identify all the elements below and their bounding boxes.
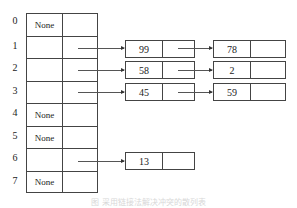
bucket-value-2	[27, 59, 63, 81]
bucket-row-4: None	[27, 104, 97, 127]
node-value: 13	[126, 153, 163, 169]
bucket-index-0: 0	[10, 15, 20, 27]
bucket-row-5: None	[27, 127, 97, 149]
bucket-index-3: 3	[10, 85, 20, 97]
bucket-index-2: 2	[10, 62, 20, 74]
bucket-row-0: None	[27, 14, 97, 37]
bucket-index-7: 7	[10, 175, 20, 187]
pointer-arrow-bucket-6	[78, 161, 124, 162]
pointer-arrow-bucket-1	[78, 48, 124, 49]
chain-node: 2	[213, 61, 286, 79]
node-value: 99	[126, 41, 163, 57]
node-value: 45	[126, 84, 163, 100]
chain-node: 59	[213, 83, 286, 101]
bucket-value-5: None	[27, 127, 63, 148]
bucket-value-4: None	[27, 104, 63, 126]
bucket-value-6	[27, 149, 63, 171]
bucket-value-7: None	[27, 172, 63, 192]
node-value: 2	[214, 62, 251, 78]
next-pointer-arrow	[178, 70, 212, 71]
pointer-arrow-bucket-3	[78, 92, 124, 93]
bucket-value-1	[27, 37, 63, 58]
bucket-value-3	[27, 82, 63, 103]
bucket-index-6: 6	[10, 152, 20, 164]
bucket-row-7: None	[27, 172, 97, 192]
chain-node: 13	[125, 152, 195, 170]
chain-node: 78	[213, 40, 286, 58]
bucket-row-3	[27, 82, 97, 104]
node-value: 59	[214, 84, 251, 100]
chain-node: 99	[125, 40, 195, 58]
bucket-array: None None None None	[26, 13, 98, 193]
next-pointer-arrow	[178, 48, 212, 49]
pointer-arrow-bucket-2	[78, 70, 124, 71]
node-value: 58	[126, 62, 163, 78]
next-pointer-arrow	[178, 92, 212, 93]
bucket-index-5: 5	[10, 130, 20, 142]
bucket-value-0: None	[27, 14, 63, 36]
bucket-index-1: 1	[10, 40, 20, 52]
node-value: 78	[214, 41, 251, 57]
bucket-index-4: 4	[10, 107, 20, 119]
figure-caption: 图 采用链接法解决冲突的散列表	[0, 196, 297, 207]
